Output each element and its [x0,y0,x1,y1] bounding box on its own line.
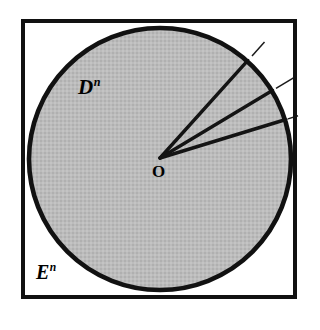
space-label: En [36,262,56,282]
disk-label: Dn [78,76,100,98]
space-label-superscript: n [50,261,56,274]
disk-label-base: D [78,75,93,99]
origin-label: O [152,163,165,180]
geometric-figure: Dn En O [0,0,320,330]
disk-label-superscript: n [94,75,101,89]
space-label-base: E [36,261,49,283]
